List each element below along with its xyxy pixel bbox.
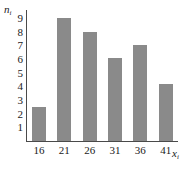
x-tick-label: 36 (135, 145, 146, 156)
y-axis-label: ni (4, 4, 11, 17)
bar (133, 45, 147, 141)
x-axis-line (26, 141, 178, 142)
x-axis-label-subscript: i (177, 153, 179, 161)
bar (159, 84, 173, 141)
x-tick-label: 41 (160, 145, 171, 156)
bar (108, 58, 122, 141)
x-tick-label: 16 (34, 145, 45, 156)
x-tick-label: 21 (59, 145, 70, 156)
y-tick-label: 5 (18, 67, 24, 78)
bar (57, 18, 71, 141)
y-tick-label: 7 (18, 40, 24, 51)
y-tick-label: 9 (18, 13, 24, 24)
y-tick-label: 6 (18, 54, 24, 65)
plot-area: 123456789 162126313641 (26, 10, 178, 141)
bar (83, 32, 97, 141)
y-tick-label: 3 (18, 95, 24, 106)
y-axis-label-subscript: i (10, 9, 12, 17)
x-axis-label: xi (172, 148, 179, 161)
x-tick-label: 26 (84, 145, 95, 156)
y-tick-label: 8 (18, 26, 24, 37)
y-tick-label: 1 (18, 122, 24, 133)
y-tick-label: 2 (18, 108, 24, 119)
y-tick-label: 4 (18, 81, 24, 92)
x-tick-label: 31 (110, 145, 121, 156)
histogram-chart: ni xi 123456789 162126313641 (0, 0, 192, 170)
y-axis-line (26, 10, 27, 141)
bar (32, 107, 46, 141)
